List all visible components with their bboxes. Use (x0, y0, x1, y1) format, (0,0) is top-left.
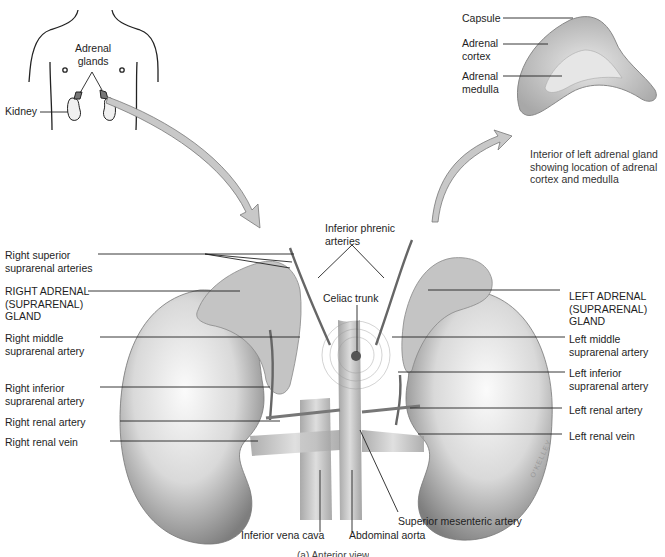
label-right-middle-suprarenal-artery: Right middle suprarenal artery (5, 332, 84, 357)
label-celiac-trunk: Celiac trunk (323, 292, 378, 305)
label-left-adrenal-gland: LEFT ADRENAL (SUPRARENAL) GLAND (569, 290, 647, 328)
label-adrenal-cortex: Adrenal cortex (462, 37, 498, 62)
label-adrenal-glands: Adrenal glands (75, 42, 111, 67)
arrow-down-icon (106, 97, 260, 228)
label-inferior-vena-cava: Inferior vena cava (241, 529, 324, 542)
label-capsule: Capsule (462, 12, 501, 25)
label-right-renal-artery: Right renal artery (5, 416, 86, 429)
label-left-inferior-suprarenal-artery: Left inferior suprarenal artery (569, 367, 648, 392)
label-inferior-phrenic-arteries: Inferior phrenic arteries (325, 222, 395, 247)
label-right-superior-suprarenal-arteries: Right superior suprarenal arteries (5, 249, 93, 274)
abdominal-aorta-icon (338, 320, 362, 520)
inferior-vena-cava-icon (300, 398, 332, 520)
label-adrenal-medulla: Adrenal medulla (462, 70, 499, 95)
label-left-renal-artery: Left renal artery (569, 404, 643, 417)
inset-kidneys (68, 90, 116, 120)
figure-caption: (a) Anterior view (297, 550, 369, 557)
label-right-inferior-suprarenal-artery: Right inferior suprarenal artery (5, 382, 84, 407)
label-left-middle-suprarenal-artery: Left middle suprarenal artery (569, 333, 648, 358)
left-renal-vein-icon (362, 430, 424, 452)
label-kidney: Kidney (5, 105, 37, 118)
anatomy-illustration (0, 0, 665, 557)
arrow-up-icon (432, 130, 512, 222)
label-right-adrenal-gland: RIGHT ADRENAL (SUPRARENAL) GLAND (5, 285, 89, 323)
section-caption: Interior of left adrenal gland showing l… (530, 148, 658, 186)
label-left-renal-vein: Left renal vein (569, 430, 635, 443)
label-superior-mesenteric-artery: Superior mesenteric artery (398, 515, 522, 528)
label-right-renal-vein: Right renal vein (5, 436, 78, 449)
label-abdominal-aorta: Abdominal aorta (349, 529, 425, 542)
